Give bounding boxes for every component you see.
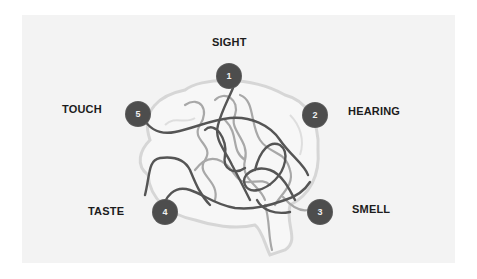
label-hearing: HEARING: [348, 105, 400, 117]
label-touch: TOUCH: [62, 103, 102, 115]
label-sight: SIGHT: [212, 36, 247, 48]
node-2-hearing: 2: [303, 103, 327, 127]
label-taste: TASTE: [88, 205, 124, 217]
node-3-smell: 3: [308, 200, 332, 224]
label-smell: SMELL: [352, 203, 390, 215]
node-5-touch: 5: [126, 102, 150, 126]
node-1-sight: 1: [217, 64, 241, 88]
node-4-taste: 4: [153, 200, 177, 224]
